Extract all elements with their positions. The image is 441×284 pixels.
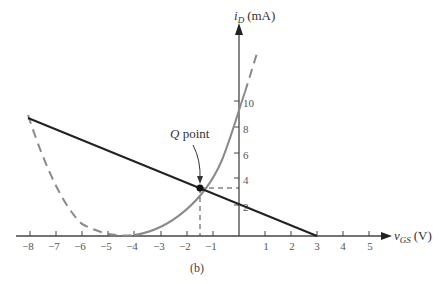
svg-text:−4: −4 [126, 240, 138, 252]
x-axis-arrow-icon [381, 232, 392, 240]
svg-text:2: 2 [289, 240, 295, 252]
svg-text:4: 4 [340, 240, 346, 252]
figure-caption: (b) [190, 261, 204, 275]
y-axis-label: iD(mA) [234, 8, 275, 25]
svg-text:1: 1 [263, 240, 269, 252]
svg-text:−3: −3 [153, 240, 165, 252]
q-point-arrowhead-icon [197, 176, 203, 184]
svg-text:4: 4 [243, 174, 249, 186]
transfer-curve-dashed [28, 115, 134, 236]
svg-text:−7: −7 [48, 240, 60, 252]
transfer-curve-dashed-top [245, 50, 258, 92]
svg-text:−6: −6 [74, 240, 86, 252]
x-axis-label: vGS(V) [394, 228, 432, 245]
q-point-label: Q point [170, 126, 210, 141]
svg-text:3: 3 [314, 240, 320, 252]
svg-text:−5: −5 [100, 240, 112, 252]
q-point-arrow [193, 145, 200, 180]
svg-text:−8: −8 [22, 240, 34, 252]
svg-text:10: 10 [243, 97, 255, 109]
chart: −8 −7 −6 −5 −4 −3 −2 −1 1 2 3 4 5 2 4 6 … [0, 0, 441, 284]
svg-text:−2: −2 [179, 240, 191, 252]
x-tick-labels: −8 −7 −6 −5 −4 −3 −2 −1 1 2 3 4 5 [22, 240, 373, 252]
svg-text:5: 5 [367, 240, 373, 252]
transfer-curve-solid [134, 92, 245, 235]
svg-text:−1: −1 [205, 240, 217, 252]
y-tick-labels: 2 4 6 8 10 [243, 97, 255, 213]
svg-text:6: 6 [243, 149, 249, 161]
svg-text:8: 8 [243, 123, 249, 135]
q-point-marker [197, 185, 204, 192]
